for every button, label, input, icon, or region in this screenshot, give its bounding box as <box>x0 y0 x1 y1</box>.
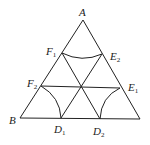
label-f1: F1 <box>45 45 57 59</box>
arc-e1-d2 <box>100 88 120 119</box>
label-d1-sub: 1 <box>62 129 66 137</box>
label-a: A <box>78 6 86 18</box>
label-f1-sub: 1 <box>53 51 57 59</box>
label-b: B <box>9 114 16 126</box>
arc-f2-d1 <box>41 86 61 118</box>
label-e1-sub: 1 <box>135 87 139 95</box>
label-e1: E1 <box>127 81 139 95</box>
label-d2-main: D <box>92 125 101 137</box>
triangle-abc <box>20 20 140 119</box>
arc-f1-e2 <box>62 53 102 58</box>
label-f2: F2 <box>26 77 38 91</box>
segment-e2-d1 <box>61 54 102 118</box>
triangle-diagram: A B F1 E2 F2 E1 D1 D2 <box>0 0 150 145</box>
label-d2-sub: 2 <box>101 131 105 139</box>
label-d1-main: D <box>53 123 62 135</box>
label-f2-sub: 2 <box>34 83 38 91</box>
label-e2: E2 <box>109 50 121 64</box>
label-d2: D2 <box>92 125 105 139</box>
label-e2-sub: 2 <box>117 56 121 64</box>
label-d1: D1 <box>53 123 66 137</box>
